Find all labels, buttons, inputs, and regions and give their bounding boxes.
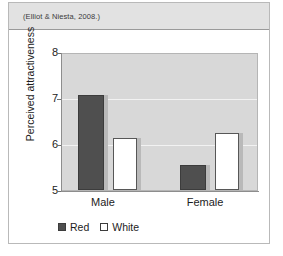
chart-legend: Red White bbox=[58, 221, 139, 233]
legend-item-white: White bbox=[100, 221, 139, 233]
legend-label-red: Red bbox=[70, 221, 89, 233]
y-tick-label-6: 6 bbox=[36, 138, 58, 150]
legend-item-red: Red bbox=[58, 221, 89, 233]
bar-male-white[interactable] bbox=[113, 138, 137, 190]
y-axis-line bbox=[61, 53, 62, 192]
bar-chart: Perceived attractiveness 8 7 6 5 bbox=[0, 0, 283, 256]
bar-male-red[interactable] bbox=[78, 95, 104, 190]
bar-female-red[interactable] bbox=[180, 165, 206, 190]
y-tick-label-5: 5 bbox=[36, 184, 58, 196]
y-tick-label-7: 7 bbox=[36, 92, 58, 104]
bar-female-white[interactable] bbox=[215, 133, 239, 190]
y-axis-title: Perceived attractiveness bbox=[24, 9, 36, 159]
plot-area bbox=[61, 53, 258, 191]
figure-screenshot: (Elliot & Niesta, 2008.) Perceived attra… bbox=[0, 0, 283, 256]
filled-dark-square-icon bbox=[58, 223, 66, 231]
x-tick-label-male: Male bbox=[58, 196, 148, 208]
x-axis-line bbox=[61, 191, 259, 192]
x-tick-label-female: Female bbox=[160, 196, 250, 208]
y-tick-label-8: 8 bbox=[36, 46, 58, 58]
outlined-white-square-icon bbox=[100, 223, 108, 231]
legend-label-white: White bbox=[112, 221, 139, 233]
